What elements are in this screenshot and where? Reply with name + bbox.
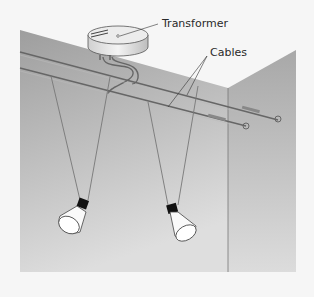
transformer-label: Transformer <box>162 17 228 30</box>
diagram-canvas: Transformer Cables <box>0 0 314 297</box>
cable-lighting-illustration <box>0 0 314 297</box>
wall-right <box>228 50 296 272</box>
cables-label: Cables <box>210 46 247 59</box>
